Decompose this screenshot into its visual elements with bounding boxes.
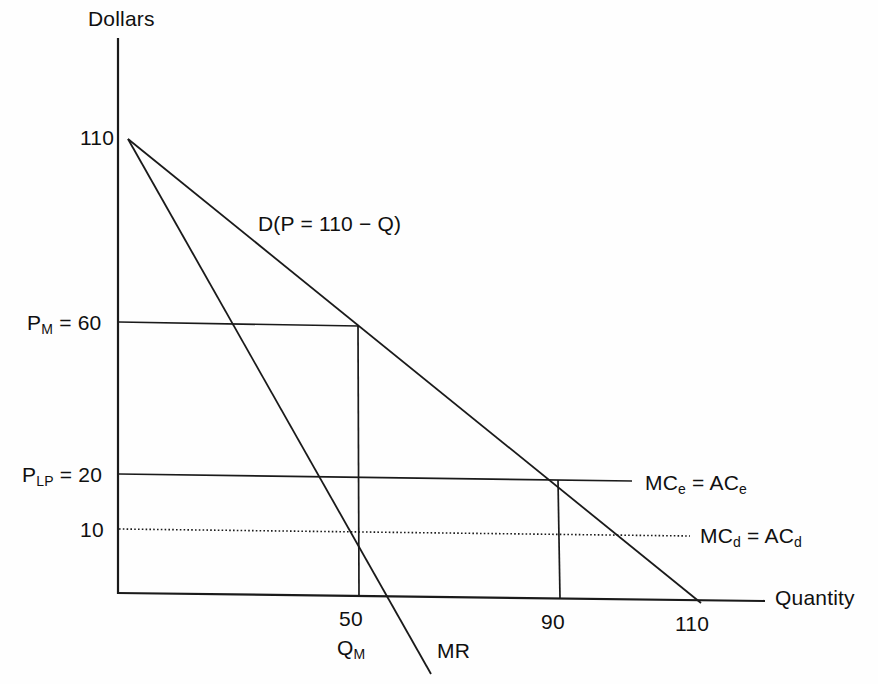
incumbent-cost-line (119, 529, 690, 536)
monopoly-quantity-guide (358, 326, 359, 595)
x-tick-50: 50 (339, 608, 363, 629)
y-tick-monopoly-price: PM = 60 (27, 312, 101, 333)
demand-curve (128, 139, 701, 603)
mcd-mid: = AC (741, 524, 794, 547)
x-axis (117, 593, 765, 601)
ace-subscript: e (739, 481, 747, 497)
diagram-canvas (0, 0, 878, 684)
pm-value: = 60 (53, 311, 101, 334)
mce-mid: = AC (686, 471, 739, 494)
pm-base: P (27, 311, 41, 334)
mce-base: MC (645, 471, 678, 494)
qm-subscript: M (354, 646, 366, 662)
mcd-base: MC (700, 524, 733, 547)
acd-subscript: d (794, 534, 802, 550)
x-tick-90: 90 (541, 611, 565, 632)
mr-curve-label: MR (437, 640, 470, 661)
limit-quantity-guide (558, 480, 560, 598)
y-tick-110: 110 (80, 127, 114, 148)
monopoly-price-guide (119, 322, 359, 326)
economics-diagram: Dollars Quantity 110 PM = 60 PLP = 20 10… (0, 0, 878, 684)
qm-base: Q (337, 636, 354, 659)
x-axis-title: Quantity (775, 587, 855, 608)
demand-curve-label: D(P = 110 − Q) (258, 213, 401, 234)
entrant-cost-label: MCe = ACe (645, 472, 747, 493)
plp-subscript: LP (36, 473, 54, 489)
y-tick-limit-price: PLP = 20 (22, 464, 102, 485)
plp-base: P (22, 463, 36, 486)
mcd-subscript: d (733, 534, 741, 550)
plp-value: = 20 (54, 463, 102, 486)
y-tick-10: 10 (80, 519, 104, 540)
pm-subscript: M (41, 321, 53, 337)
entrant-cost-line (119, 474, 632, 481)
mce-subscript: e (678, 481, 686, 497)
y-axis-title: Dollars (88, 8, 155, 29)
incumbent-cost-label: MCd = ACd (700, 525, 802, 546)
x-tick-qm: QM (337, 637, 365, 658)
x-tick-110: 110 (675, 613, 709, 634)
